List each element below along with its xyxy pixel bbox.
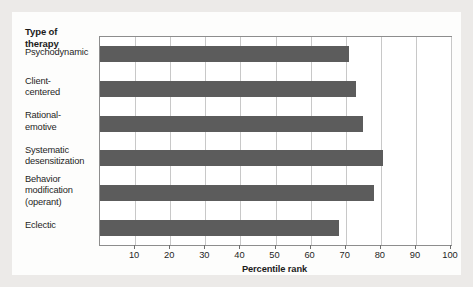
category-label-line: Systematic xyxy=(25,145,99,156)
category-axis-title-line1: Type of xyxy=(25,26,57,37)
category-label-line: (operant) xyxy=(25,197,99,208)
x-tick-label-70: 70 xyxy=(330,250,360,260)
x-tick-label-40: 40 xyxy=(224,250,254,260)
plot-area xyxy=(99,36,452,246)
category-label-line: Rational- xyxy=(25,110,99,121)
category-label-line: Eclectic xyxy=(25,220,99,231)
x-axis-label: Percentile rank xyxy=(99,264,450,274)
x-tick-label-80: 80 xyxy=(365,250,395,260)
x-tick-label-10: 10 xyxy=(119,250,149,260)
gridline-20 xyxy=(170,37,171,245)
x-tick-mark-10 xyxy=(134,245,135,249)
category-label-line: centered xyxy=(25,87,99,98)
category-label-line: desensitization xyxy=(25,156,99,167)
category-label-3: Rational-emotive xyxy=(25,110,99,133)
x-tick-label-20: 20 xyxy=(154,250,184,260)
x-tick-label-60: 60 xyxy=(295,250,325,260)
category-axis-title: Type of therapy xyxy=(25,26,97,49)
category-label-line: modification xyxy=(25,185,99,196)
category-label-line: Behavior xyxy=(25,174,99,185)
x-tick-mark-50 xyxy=(275,245,276,249)
x-tick-mark-90 xyxy=(415,245,416,249)
x-tick-mark-40 xyxy=(239,245,240,249)
category-label-1: Psychodynamic xyxy=(25,47,99,58)
x-tick-label-50: 50 xyxy=(260,250,290,260)
x-tick-mark-100 xyxy=(450,245,451,249)
bar xyxy=(100,81,356,97)
bar xyxy=(100,150,383,166)
gridline-10 xyxy=(135,37,136,245)
category-label-6: Eclectic xyxy=(25,220,99,231)
x-tick-label-30: 30 xyxy=(189,250,219,260)
x-tick-label-100: 100 xyxy=(435,250,465,260)
category-label-4: Systematicdesensitization xyxy=(25,145,99,168)
gridline-70 xyxy=(346,37,347,245)
bar xyxy=(100,46,349,62)
gridline-40 xyxy=(240,37,241,245)
gridline-90 xyxy=(416,37,417,245)
x-tick-mark-30 xyxy=(204,245,205,249)
gridline-50 xyxy=(276,37,277,245)
category-label-2: Client-centered xyxy=(25,76,99,99)
bar xyxy=(100,185,374,201)
x-tick-mark-20 xyxy=(169,245,170,249)
x-tick-mark-80 xyxy=(380,245,381,249)
x-tick-label-90: 90 xyxy=(400,250,430,260)
category-label-line: emotive xyxy=(25,122,99,133)
gridline-100 xyxy=(451,37,452,245)
gridline-80 xyxy=(381,37,382,245)
x-tick-mark-70 xyxy=(345,245,346,249)
bar-chart-figure: Type of therapy PsychodynamicClient-cent… xyxy=(0,0,473,287)
gridline-30 xyxy=(205,37,206,245)
gridline-60 xyxy=(311,37,312,245)
category-label-line: Client- xyxy=(25,76,99,87)
x-tick-mark-60 xyxy=(310,245,311,249)
bar xyxy=(100,116,363,132)
category-label-line: Psychodynamic xyxy=(25,47,99,58)
bar xyxy=(100,220,339,236)
category-label-5: Behaviormodification(operant) xyxy=(25,174,99,208)
